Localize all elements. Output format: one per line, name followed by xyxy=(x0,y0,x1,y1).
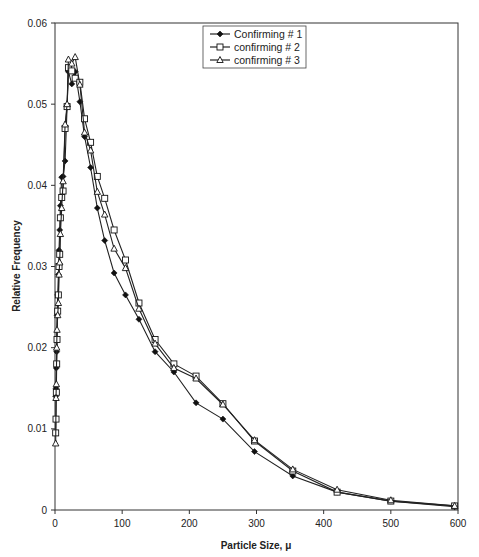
y-axis-title: Relative Frequency xyxy=(11,220,22,312)
open-triangle-marker xyxy=(87,147,93,153)
y-axis: 00.010.020.030.040.050.06 xyxy=(28,18,55,516)
x-tick-label: 500 xyxy=(382,518,399,529)
plot-area xyxy=(55,23,458,510)
open-triangle-marker xyxy=(102,211,108,217)
open-square-marker xyxy=(217,44,223,50)
y-tick-label: 0 xyxy=(41,505,47,516)
filled-diamond-marker xyxy=(136,316,142,322)
open-triangle-marker xyxy=(52,440,58,446)
open-square-marker xyxy=(57,215,63,221)
open-square-marker xyxy=(123,257,129,263)
legend-label: confirming # 2 xyxy=(234,41,300,53)
open-square-marker xyxy=(102,195,108,201)
x-tick-label: 400 xyxy=(315,518,332,529)
open-triangle-marker xyxy=(62,121,68,127)
filled-diamond-marker xyxy=(102,238,108,244)
x-tick-label: 0 xyxy=(52,518,58,529)
x-tick-label: 200 xyxy=(181,518,198,529)
y-tick-label: 0.03 xyxy=(28,261,48,272)
filled-diamond-marker xyxy=(69,81,75,87)
open-square-marker xyxy=(111,227,117,233)
x-tick-label: 600 xyxy=(450,518,467,529)
legend-label: confirming # 3 xyxy=(234,54,300,66)
filled-diamond-marker xyxy=(62,158,68,164)
plot-frame xyxy=(55,23,458,510)
y-tick-label: 0.06 xyxy=(28,18,48,29)
open-triangle-marker xyxy=(53,381,59,387)
particle-size-chart: 00.010.020.030.040.050.06 01002003004005… xyxy=(0,0,479,557)
open-square-marker xyxy=(82,116,88,122)
y-tick-label: 0.04 xyxy=(28,180,48,191)
legend-label: Confirming # 1 xyxy=(234,28,302,40)
filled-diamond-marker xyxy=(123,292,129,298)
x-axis-title: Particle Size, μ xyxy=(221,540,292,551)
open-triangle-marker xyxy=(57,259,63,265)
y-tick-label: 0.02 xyxy=(28,342,48,353)
y-tick-label: 0.01 xyxy=(28,423,48,434)
x-tick-label: 100 xyxy=(114,518,131,529)
y-tick-label: 0.05 xyxy=(28,99,48,110)
series-layer xyxy=(52,54,457,510)
x-tick-label: 300 xyxy=(248,518,265,529)
open-square-icon xyxy=(217,44,223,50)
legend: Confirming # 1 confirming # 2 confirming… xyxy=(203,26,306,68)
series-3 xyxy=(52,54,457,509)
open-square-marker xyxy=(69,68,75,74)
open-triangle-marker xyxy=(65,56,71,62)
x-axis: 0100200300400500600 xyxy=(52,510,467,529)
filled-diamond-marker xyxy=(94,205,100,211)
open-triangle-marker xyxy=(55,300,61,306)
open-triangle-marker xyxy=(72,54,78,60)
filled-diamond-marker xyxy=(111,270,117,276)
open-triangle-marker xyxy=(111,245,117,251)
open-triangle-marker xyxy=(81,129,87,135)
